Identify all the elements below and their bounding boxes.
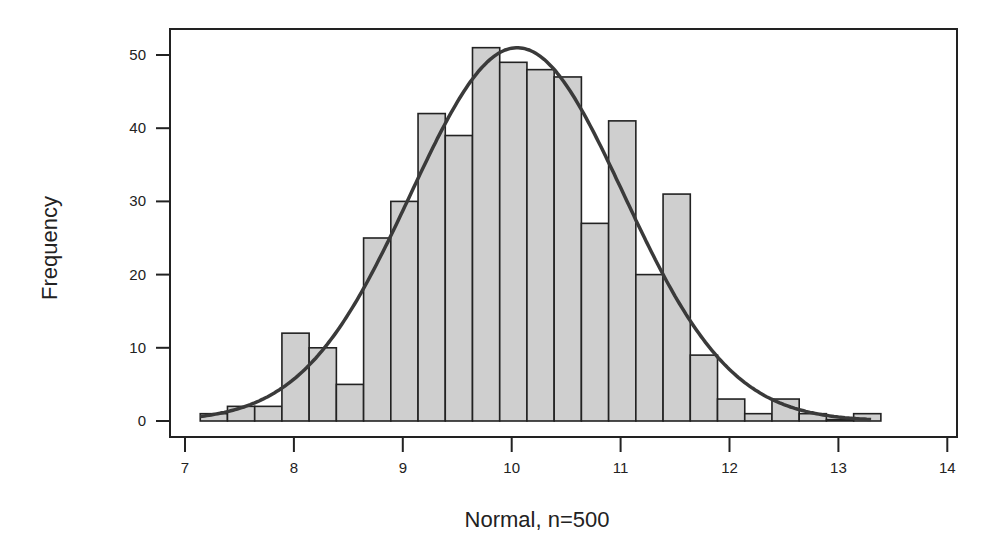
- histogram-bar: [527, 70, 554, 421]
- x-tick-label: 8: [290, 459, 298, 476]
- y-tick-label: 10: [129, 339, 146, 356]
- y-tick-label: 50: [129, 46, 146, 63]
- histogram-bar: [745, 414, 772, 421]
- histogram-chart: 01020304050 7891011121314 Frequency Norm…: [0, 0, 995, 560]
- histogram-bar: [718, 399, 745, 421]
- y-axis-title: Frequency: [37, 196, 62, 300]
- histogram-bar: [418, 114, 445, 421]
- histogram-bar: [391, 201, 418, 421]
- y-axis: 01020304050: [129, 46, 170, 429]
- histogram-bar: [663, 194, 690, 421]
- x-tick-label: 11: [613, 459, 629, 476]
- histogram-bar: [554, 77, 581, 421]
- histogram-bar: [472, 48, 499, 421]
- x-axis: 7891011121314: [181, 437, 956, 476]
- x-tick-label: 7: [181, 459, 189, 476]
- histogram-bar: [636, 275, 663, 421]
- y-tick-label: 20: [129, 266, 146, 283]
- histogram-bar: [690, 355, 717, 421]
- histogram-bar: [500, 62, 527, 421]
- histogram-bar: [255, 406, 282, 421]
- histogram-bar: [445, 136, 472, 421]
- x-axis-title: Normal, n=500: [465, 507, 610, 532]
- x-tick-label: 12: [721, 459, 738, 476]
- histogram-bar: [609, 121, 636, 421]
- x-tick-label: 9: [399, 459, 407, 476]
- y-tick-label: 40: [129, 119, 146, 136]
- histogram-bar: [581, 223, 608, 421]
- histogram-bar: [336, 384, 363, 421]
- x-tick-label: 10: [503, 459, 520, 476]
- x-tick-label: 14: [939, 459, 956, 476]
- y-tick-label: 0: [138, 412, 146, 429]
- x-tick-label: 13: [830, 459, 847, 476]
- y-tick-label: 30: [129, 192, 146, 209]
